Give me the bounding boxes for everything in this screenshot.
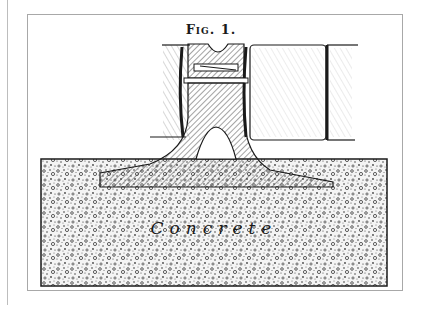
rail-in-concrete-illustration: Concrete xyxy=(0,0,422,310)
concrete-label: Concrete xyxy=(151,218,278,238)
paving-blocks xyxy=(150,45,358,140)
